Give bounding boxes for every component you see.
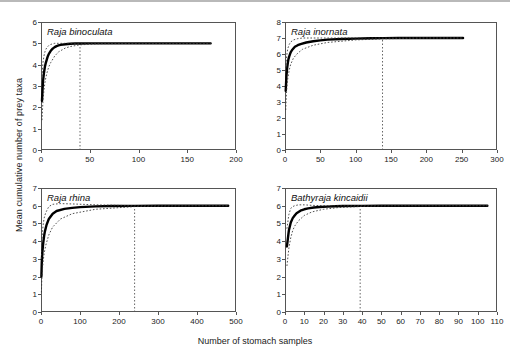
curve-layer-top-right: [285, 22, 497, 150]
x-tick-mark: [324, 312, 325, 315]
x-tick-mark: [236, 312, 237, 315]
x-tick-mark: [90, 150, 91, 153]
y-tick-label: 2: [15, 103, 37, 112]
y-tick-label: 4: [15, 60, 37, 69]
y-tick-label: 7: [15, 184, 37, 193]
x-tick-mark: [285, 150, 286, 153]
x-tick-mark: [439, 312, 440, 315]
y-tick-label: 0: [259, 308, 281, 317]
x-tick-mark: [356, 150, 357, 153]
series-path: [42, 43, 211, 120]
series-path: [286, 38, 463, 110]
x-tick-label: 50: [305, 155, 335, 164]
series-path: [287, 206, 487, 266]
curve-layer-bottom-right: [285, 188, 497, 312]
x-tick-mark: [119, 312, 120, 315]
x-tick-mark: [478, 312, 479, 315]
x-tick-mark: [236, 150, 237, 153]
species-title-top-left: Raja binoculata: [47, 26, 113, 37]
y-tick-label: 3: [259, 254, 281, 263]
y-tick-label: 5: [15, 219, 37, 228]
x-tick-mark: [497, 312, 498, 315]
x-tick-label: 0: [26, 155, 56, 164]
x-tick-mark: [41, 312, 42, 315]
y-tick-label: 6: [15, 201, 37, 210]
x-tick-mark: [41, 150, 42, 153]
x-tick-mark: [362, 312, 363, 315]
x-tick-mark: [320, 150, 321, 153]
species-title-top-right: Raja inornata: [291, 26, 348, 37]
x-tick-label: 200: [221, 155, 251, 164]
x-tick-mark: [139, 150, 140, 153]
x-tick-mark: [391, 150, 392, 153]
species-title-bottom-left: Raja rhina: [47, 192, 90, 203]
x-tick-label: 150: [376, 155, 406, 164]
y-tick-label: 5: [15, 39, 37, 48]
y-tick-label: 2: [259, 272, 281, 281]
x-tick-label: 200: [104, 317, 134, 326]
curve-layer-top-left: [41, 22, 236, 150]
x-tick-mark: [158, 312, 159, 315]
x-tick-mark: [381, 312, 382, 315]
y-tick-label: 6: [259, 201, 281, 210]
x-tick-label: 110: [482, 317, 510, 326]
y-tick-label: 5: [259, 219, 281, 228]
y-tick-label: 0: [15, 308, 37, 317]
series-path: [42, 43, 211, 79]
species-title-bottom-right: Bathyraja kincaidii: [291, 192, 368, 203]
figure-top-divider: [0, 0, 510, 2]
y-tick-label: 1: [15, 124, 37, 133]
y-tick-label: 0: [259, 146, 281, 155]
x-tick-label: 500: [221, 317, 251, 326]
x-tick-label: 100: [65, 317, 95, 326]
y-tick-label: 3: [15, 254, 37, 263]
x-tick-mark: [197, 312, 198, 315]
x-tick-mark: [80, 312, 81, 315]
x-tick-label: 200: [411, 155, 441, 164]
y-tick-label: 7: [259, 34, 281, 43]
y-tick-label: 1: [259, 290, 281, 299]
x-tick-label: 400: [182, 317, 212, 326]
x-tick-label: 300: [482, 155, 510, 164]
x-tick-mark: [462, 150, 463, 153]
y-tick-label: 1: [15, 290, 37, 299]
series-path: [42, 43, 211, 101]
y-tick-label: 4: [259, 82, 281, 91]
x-tick-mark: [401, 312, 402, 315]
y-tick-label: 5: [259, 66, 281, 75]
y-axis-label: Mean cumulative number of prey taxa: [14, 40, 24, 270]
y-tick-label: 4: [259, 237, 281, 246]
x-tick-mark: [343, 312, 344, 315]
x-tick-mark: [426, 150, 427, 153]
x-tick-label: 300: [143, 317, 173, 326]
x-tick-mark: [187, 150, 188, 153]
series-path: [287, 206, 487, 247]
curve-layer-bottom-left: [41, 188, 236, 312]
y-tick-label: 3: [259, 98, 281, 107]
y-tick-label: 2: [259, 114, 281, 123]
x-tick-mark: [304, 312, 305, 315]
x-tick-label: 50: [75, 155, 105, 164]
x-tick-mark: [497, 150, 498, 153]
x-tick-label: 250: [447, 155, 477, 164]
x-tick-label: 150: [172, 155, 202, 164]
x-tick-label: 0: [26, 317, 56, 326]
x-tick-mark: [420, 312, 421, 315]
x-tick-mark: [285, 312, 286, 315]
x-axis-label: Number of stomach samples: [0, 336, 510, 346]
series-path: [286, 38, 463, 72]
species-accumulation-figure: Mean cumulative number of prey taxa Numb…: [0, 0, 510, 360]
y-tick-label: 6: [259, 50, 281, 59]
y-tick-label: 3: [15, 82, 37, 91]
x-tick-label: 100: [341, 155, 371, 164]
y-tick-label: 2: [15, 272, 37, 281]
y-tick-label: 8: [259, 18, 281, 27]
x-tick-mark: [458, 312, 459, 315]
y-tick-label: 7: [259, 184, 281, 193]
y-tick-label: 4: [15, 237, 37, 246]
y-tick-label: 0: [15, 146, 37, 155]
y-tick-label: 1: [259, 130, 281, 139]
x-tick-label: 0: [270, 155, 300, 164]
series-path: [287, 205, 487, 229]
y-tick-label: 6: [15, 18, 37, 27]
